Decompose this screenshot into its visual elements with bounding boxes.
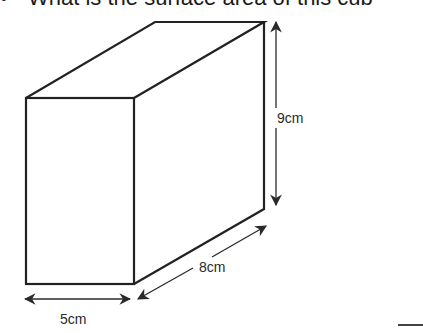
height-label: 9cm [277,110,303,126]
width-label: 5cm [60,311,86,327]
depth-label: 8cm [199,259,225,275]
top-face [26,22,264,98]
cuboid-diagram [0,0,423,333]
front-face [26,98,134,284]
divider-line [398,324,423,326]
side-face [134,22,264,284]
cuboid-shape [26,22,264,284]
